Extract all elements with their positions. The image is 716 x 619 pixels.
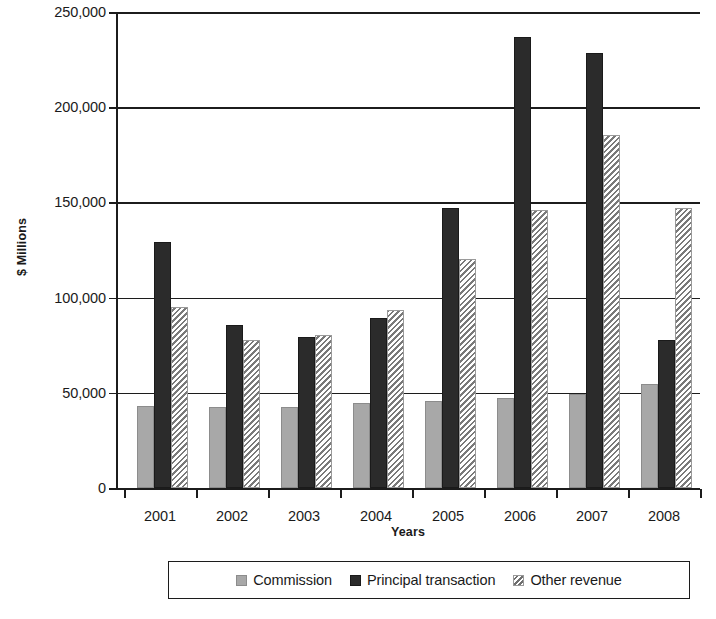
x-axis-tick-label: 2008 bbox=[628, 508, 700, 524]
chart-legend: CommissionPrincipal transactionOther rev… bbox=[168, 561, 690, 599]
legend-item-principal-transaction[interactable]: Principal transaction bbox=[350, 572, 495, 588]
x-axis-tick-mark bbox=[340, 489, 342, 498]
x-axis-tick-mark bbox=[700, 489, 702, 498]
y-axis-line bbox=[116, 13, 118, 489]
gridline bbox=[116, 12, 700, 14]
legend-label-commission: Commission bbox=[253, 572, 332, 588]
bar-commission-2001 bbox=[137, 406, 154, 488]
x-axis-tick-mark bbox=[556, 489, 558, 498]
bar-other-revenue-2002 bbox=[243, 340, 260, 489]
x-axis-tick-label: 2001 bbox=[124, 508, 196, 524]
y-axis-tick-mark bbox=[109, 107, 117, 109]
legend-swatch-principal bbox=[350, 575, 361, 586]
x-axis-tick-label: 2002 bbox=[196, 508, 268, 524]
x-axis-tick-mark bbox=[124, 489, 126, 498]
bar-principal-transaction-2006 bbox=[514, 37, 531, 488]
x-axis-tick-label: 2007 bbox=[556, 508, 628, 524]
y-axis-tick-label: 0 bbox=[24, 481, 106, 495]
bar-other-revenue-2008 bbox=[675, 208, 692, 488]
y-axis-tick-mark bbox=[109, 12, 117, 14]
bar-principal-transaction-2003 bbox=[298, 337, 315, 488]
x-axis-tick-mark bbox=[196, 489, 198, 498]
x-axis-tick-mark bbox=[412, 489, 414, 498]
bar-commission-2002 bbox=[209, 407, 226, 488]
legend-swatch-commission bbox=[236, 575, 247, 586]
x-axis-title: Years bbox=[116, 525, 700, 539]
x-axis-tick-mark bbox=[484, 489, 486, 498]
legend-swatch-other-revenue bbox=[513, 575, 524, 586]
bar-other-revenue-2001 bbox=[171, 307, 188, 488]
bar-principal-transaction-2004 bbox=[370, 318, 387, 488]
bar-commission-2007 bbox=[569, 394, 586, 488]
legend-label-other-revenue: Other revenue bbox=[530, 572, 621, 588]
legend-label-principal-transaction: Principal transaction bbox=[367, 572, 495, 588]
plot-area: 20012002200320042005200620072008 bbox=[116, 13, 700, 488]
y-axis-tick-label: 50,000 bbox=[24, 386, 106, 400]
y-axis-tick-label: 200,000 bbox=[24, 100, 106, 114]
bar-other-revenue-2004 bbox=[387, 310, 404, 488]
grouped-bar-chart: $ Millions 050,000100,000150,000200,0002… bbox=[0, 0, 716, 619]
bar-principal-transaction-2002 bbox=[226, 325, 243, 488]
bar-principal-transaction-2005 bbox=[442, 208, 459, 488]
y-axis-tick-label: 100,000 bbox=[24, 291, 106, 305]
x-axis-tick-mark bbox=[268, 489, 270, 498]
bar-other-revenue-2007 bbox=[603, 135, 620, 488]
bar-other-revenue-2006 bbox=[531, 210, 548, 488]
bar-other-revenue-2005 bbox=[459, 259, 476, 488]
x-axis-baseline bbox=[116, 488, 700, 490]
x-axis-tick-label: 2005 bbox=[412, 508, 484, 524]
x-axis-tick-label: 2004 bbox=[340, 508, 412, 524]
x-axis-tick-label: 2003 bbox=[268, 508, 340, 524]
bar-commission-2003 bbox=[281, 407, 298, 488]
y-axis-tick-mark bbox=[109, 393, 117, 395]
x-axis-tick-mark bbox=[628, 489, 630, 498]
y-axis-tick-mark bbox=[109, 298, 117, 300]
y-axis-tick-label: 250,000 bbox=[24, 5, 106, 19]
y-axis-tick-mark bbox=[109, 488, 117, 490]
bar-commission-2006 bbox=[497, 398, 514, 488]
x-axis-tick-label: 2006 bbox=[484, 508, 556, 524]
bar-other-revenue-2003 bbox=[315, 335, 332, 488]
bar-principal-transaction-2001 bbox=[154, 242, 171, 488]
bar-principal-transaction-2007 bbox=[586, 53, 603, 488]
gridline bbox=[116, 107, 700, 109]
legend-item-commission[interactable]: Commission bbox=[236, 572, 332, 588]
y-axis-tick-label: 150,000 bbox=[24, 195, 106, 209]
bar-commission-2008 bbox=[641, 384, 658, 488]
bar-commission-2004 bbox=[353, 403, 370, 488]
legend-item-other-revenue[interactable]: Other revenue bbox=[513, 572, 621, 588]
bar-commission-2005 bbox=[425, 401, 442, 488]
bar-principal-transaction-2008 bbox=[658, 340, 675, 489]
y-axis-tick-mark bbox=[109, 202, 117, 204]
